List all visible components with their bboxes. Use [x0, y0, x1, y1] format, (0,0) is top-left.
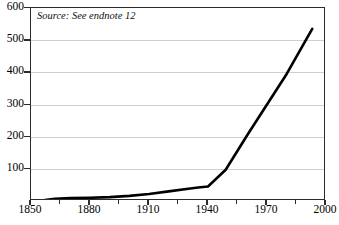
x-tick-mark-minor — [118, 200, 119, 204]
data-series-line — [31, 8, 325, 200]
y-tick-label: 500 — [0, 33, 24, 45]
x-tick-mark — [88, 200, 89, 205]
x-tick-mark-minor — [177, 200, 178, 204]
x-tick-mark-minor — [59, 200, 60, 204]
x-tick-mark-minor — [236, 200, 237, 204]
y-tick-mark — [24, 104, 30, 105]
x-tick-mark — [206, 200, 207, 205]
plot-area: Source: See endnote 12 — [30, 7, 325, 200]
y-tick-mark — [24, 7, 30, 8]
y-tick-label: 400 — [0, 65, 24, 77]
y-axis: 0100200300400500600 — [0, 0, 27, 225]
x-axis: 185018801910194019702000 — [0, 203, 339, 223]
x-tick-mark — [324, 200, 325, 205]
chart-root: 0100200300400500600 Source: See endnote … — [0, 0, 339, 225]
y-tick-mark — [24, 39, 30, 40]
x-tick-mark — [29, 200, 30, 205]
y-tick-mark — [24, 136, 30, 137]
y-tick-label: 100 — [0, 162, 24, 174]
x-tick-mark-minor — [295, 200, 296, 204]
y-tick-label: 300 — [0, 98, 24, 110]
x-tick-mark — [265, 200, 266, 205]
y-tick-mark — [24, 168, 30, 169]
y-tick-label: 600 — [0, 1, 24, 13]
x-tick-mark — [147, 200, 148, 205]
y-tick-mark — [24, 71, 30, 72]
y-tick-label: 200 — [0, 130, 24, 142]
